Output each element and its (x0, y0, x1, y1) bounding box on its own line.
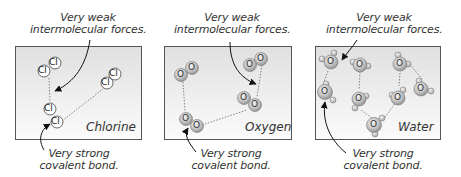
atom-symbol: O (394, 92, 401, 102)
caption-line: intermolecular forces. (326, 24, 442, 36)
panel-water (316, 40, 441, 153)
atom-symbol: O (240, 92, 247, 102)
atom-symbol: O (193, 120, 200, 130)
caption-line: covalent bond. (186, 160, 276, 172)
weak-forces-caption: Very weak intermolecular forces. (174, 12, 290, 36)
caption-line: covalent bond. (34, 160, 124, 172)
atom-symbol: O (396, 58, 403, 68)
strong-bond-caption: Very strong covalent bond. (186, 148, 276, 172)
atom-symbol: Cl (109, 68, 118, 78)
weak-forces-caption: Very weak intermolecular forces. (326, 12, 442, 36)
water-label: Water (398, 120, 434, 134)
caption-line: intermolecular forces. (174, 24, 290, 36)
strong-bond-caption: Very strong covalent bond. (34, 148, 124, 172)
caption-line: intermolecular forces. (30, 24, 146, 36)
atom-symbol: O (182, 113, 189, 123)
atom-symbol: O (257, 53, 264, 63)
atom-symbol: O (177, 69, 184, 79)
panel-oxygen (165, 42, 292, 152)
atom-symbol: O (327, 56, 334, 66)
atom-symbol: O (246, 59, 253, 69)
atom-symbol: O (251, 99, 258, 109)
atom-symbol: Cl (44, 103, 53, 113)
oxygen-label: Oxygen (245, 120, 291, 134)
atom-symbol: O (321, 86, 328, 96)
atom-symbol: Cl (51, 116, 60, 126)
caption-line: covalent bond. (338, 160, 428, 172)
weak-forces-caption: Very weak intermolecular forces. (30, 12, 146, 36)
atom-symbol: O (188, 62, 195, 72)
atom-symbol: Cl (101, 77, 110, 87)
strong-bond-caption: Very strong covalent bond. (338, 148, 428, 172)
atom-symbol: Cl (38, 65, 47, 75)
chlorine-label: Chlorine (86, 120, 136, 134)
atom-symbol: O (417, 83, 424, 93)
atom-symbol: Cl (49, 57, 58, 67)
atom-symbol: O (370, 119, 377, 129)
atom-symbol: O (356, 59, 363, 69)
atom-symbol: O (355, 93, 362, 103)
